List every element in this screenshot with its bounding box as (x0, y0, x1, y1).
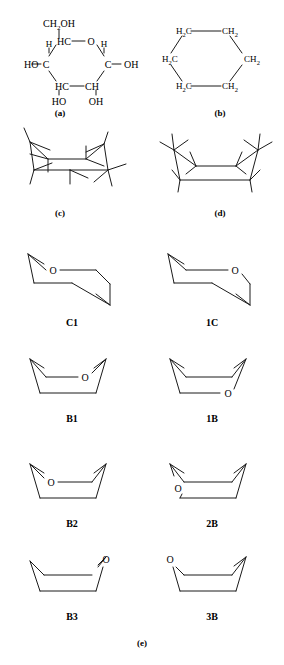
panel-b-structure: H2C CH2 CH2 CH2 H2C H2C (160, 18, 270, 103)
panel-a-left-hydrogen: H (46, 39, 53, 49)
conformer-3B-svg: O (158, 553, 268, 608)
panel-a-atom-top-left: HC (57, 36, 71, 47)
conformer-1B: O (158, 355, 268, 410)
conformer-C1: O (18, 250, 128, 312)
conformer-B3-svg: O (18, 553, 128, 608)
conformer-B2-oxygen-label: O (47, 477, 54, 488)
panel-d-structure (150, 128, 280, 206)
panel-a-atom-bottom-left: HC (55, 81, 69, 92)
conformer-2B-oxygen-label: O (174, 483, 181, 494)
cyclohexane-svg: H2C CH2 CH2 CH2 H2C H2C (160, 18, 270, 103)
conformer-1C-oxygen-label: O (231, 265, 238, 276)
panel-a-caption: (a) (40, 108, 80, 118)
conformer-1C: O (158, 250, 268, 312)
panel-d-caption: (d) (200, 208, 240, 218)
conformer-1B-oxygen-label: O (224, 388, 231, 399)
panel-a-right-hydroxyl: OH (124, 59, 138, 70)
conformer-C1-label: C1 (32, 317, 112, 328)
conformer-B2-label: B2 (32, 518, 112, 529)
conformer-1C-label: 1C (172, 317, 252, 328)
conformer-B1-oxygen-label: O (81, 372, 88, 383)
conformer-1B-label: 1B (172, 413, 252, 424)
conformer-3B: O (158, 553, 268, 608)
panel-b-vertex-4: H2C (176, 81, 192, 93)
figure-canvas: CH2OH HC O C C HC CH HO OH H H HO OH (a) (0, 0, 284, 665)
panel-a-atom-left: C (43, 59, 50, 70)
chair-conformation-svg (8, 126, 138, 206)
panel-a-bottom-left-hydroxyl: HO (52, 96, 66, 107)
panel-a-atom-right: C (105, 59, 112, 70)
conformer-2B-svg: O (158, 460, 268, 515)
conformer-3B-label: 3B (172, 611, 252, 622)
panel-a-right-hydrogen: H (101, 39, 108, 49)
panel-b-vertex-2: CH2 (244, 54, 260, 66)
panel-c-caption: (c) (40, 208, 80, 218)
glucopyranose-svg: CH2OH HC O C C HC CH HO OH H H HO OH (18, 8, 148, 106)
conformer-B2: O (18, 460, 128, 515)
conformer-B1: O (18, 355, 128, 410)
conformer-B3-oxygen-label: O (102, 554, 109, 565)
panel-c-structure (8, 126, 138, 206)
panel-a-left-hydroxyl: HO (24, 59, 38, 70)
panel-a-top-substituent: CH2OH (43, 18, 75, 32)
conformer-B3: O (18, 553, 128, 608)
panel-b-vertex-1: CH2 (222, 26, 238, 38)
panel-e-caption: (e) (122, 638, 162, 648)
panel-b-vertex-3: CH2 (222, 81, 238, 93)
panel-a-atom-bottom-right: CH (85, 81, 99, 92)
conformer-C1-svg: O (18, 250, 128, 312)
conformer-B3-label: B3 (32, 611, 112, 622)
conformer-B1-label: B1 (32, 413, 112, 424)
conformer-3B-oxygen-label: O (166, 554, 173, 565)
panel-a-bottom-right-hydroxyl: OH (89, 96, 103, 107)
panel-a-structure: CH2OH HC O C C HC CH HO OH H H HO OH (18, 8, 148, 106)
panel-b-caption: (b) (200, 108, 240, 118)
panel-b-vertex-0: H2C (176, 26, 192, 38)
boat-conformation-svg (150, 128, 280, 206)
conformer-2B-label: 2B (172, 518, 252, 529)
panel-b-vertex-5: H2C (162, 54, 178, 66)
panel-a-atom-ring-oxygen: O (87, 36, 94, 47)
conformer-1B-svg: O (158, 355, 268, 410)
conformer-C1-oxygen-label: O (49, 265, 56, 276)
conformer-2B: O (158, 460, 268, 515)
conformer-B1-svg: O (18, 355, 128, 410)
conformer-B2-svg: O (18, 460, 128, 515)
conformer-1C-svg: O (158, 250, 268, 312)
